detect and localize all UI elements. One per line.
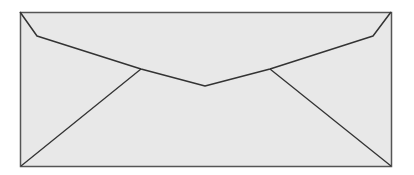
envelope-illustration [0, 0, 414, 175]
envelope-icon [0, 0, 414, 175]
envelope-body [21, 13, 392, 167]
